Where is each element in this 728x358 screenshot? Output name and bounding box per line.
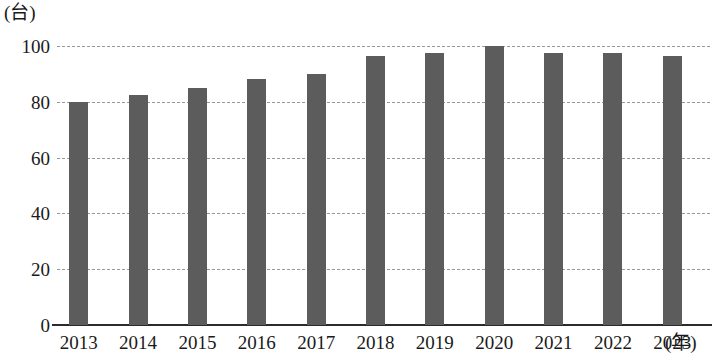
bar-2016 — [247, 79, 266, 325]
y-tick-label-80: 80 — [31, 93, 50, 112]
y-tick-label-0: 0 — [41, 316, 51, 335]
bar-2017 — [307, 74, 326, 325]
bar-chart: (台) 020406080100 20132014201520162017201… — [0, 0, 728, 358]
bar-2022 — [603, 53, 622, 325]
bar-2018 — [366, 56, 385, 325]
y-tick-label-40: 40 — [31, 204, 50, 223]
x-axis-unit-label: (年) — [665, 331, 697, 355]
x-tick-label-2019: 2019 — [416, 331, 454, 355]
x-tick-label-2021: 2021 — [535, 331, 573, 355]
x-tick-label-2020: 2020 — [475, 331, 513, 355]
bars-layer — [57, 46, 710, 325]
x-tick-label-2022: 2022 — [594, 331, 632, 355]
bar-2020 — [485, 46, 504, 325]
x-tick-label-2017: 2017 — [297, 331, 335, 355]
x-tick-label-2016: 2016 — [238, 331, 276, 355]
bar-2021 — [544, 53, 563, 325]
bar-2015 — [188, 88, 207, 325]
y-tick-label-100: 100 — [22, 37, 51, 56]
x-tick-label-2015: 2015 — [178, 331, 216, 355]
x-axis-tick-labels: 2013201420152016201720182019202020212022… — [57, 331, 710, 358]
y-tick-label-20: 20 — [31, 260, 50, 279]
bar-2014 — [129, 95, 148, 325]
y-tick-label-60: 60 — [31, 149, 50, 168]
bar-2023 — [663, 56, 682, 325]
x-tick-label-2013: 2013 — [60, 331, 98, 355]
bar-2013 — [69, 102, 88, 325]
bar-2019 — [425, 53, 444, 325]
y-axis-tick-labels: 020406080100 — [0, 0, 50, 358]
x-tick-label-2014: 2014 — [119, 331, 157, 355]
x-tick-label-2018: 2018 — [357, 331, 395, 355]
